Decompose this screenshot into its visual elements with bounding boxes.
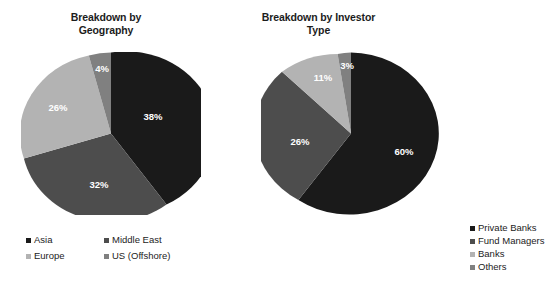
legend-label-us-offshore: US (Offshore) — [112, 250, 170, 262]
chart-title-geography-line2: Geography — [0, 24, 212, 37]
legend-item-private-banks[interactable]: Private Banks — [470, 222, 549, 234]
pie-slices-investor-type — [261, 53, 439, 215]
chart-title-investor-type-line1: Breakdown by Investor — [262, 11, 375, 23]
legend-label-fund-managers: Fund Managers — [478, 235, 545, 247]
legend-swatch-icon-europe — [26, 254, 31, 259]
pie-label-private-banks: 60% — [394, 146, 414, 157]
legend-swatch-icon-others — [470, 265, 475, 270]
legend-item-europe[interactable]: Europe — [26, 250, 104, 262]
pie-slices-geography — [21, 52, 201, 215]
chart-title-geography: Breakdown by Geography — [0, 11, 212, 37]
legend-item-fund-managers[interactable]: Fund Managers — [470, 235, 549, 247]
legend-swatch-icon-asia — [26, 238, 31, 243]
pie-label-middle-east: 32% — [89, 179, 109, 190]
legend-swatch-icon-middle-east — [104, 238, 109, 243]
legend-label-europe: Europe — [34, 250, 65, 262]
legend-label-private-banks: Private Banks — [478, 222, 537, 234]
legend-investor-type: Private Banks Fund Managers Banks Others — [470, 222, 549, 273]
legend-item-middle-east[interactable]: Middle East — [104, 234, 194, 246]
chart-panel-geography: Breakdown by Geography 38% 32% — [0, 0, 212, 281]
chart-panel-investor-type: Breakdown by Investor Type 60% 26% — [212, 0, 425, 281]
pie-label-europe: 26% — [48, 102, 68, 113]
legend-label-others: Others — [478, 261, 507, 273]
pie-svg-geography: 38% 32% 26% 4% — [21, 52, 201, 215]
legend-swatch-icon-fund-managers — [470, 239, 475, 244]
legend-swatch-icon-us-offshore — [104, 254, 109, 259]
legend-label-middle-east: Middle East — [112, 234, 162, 246]
legend-label-asia: Asia — [34, 234, 52, 246]
chart-title-geography-line1: Breakdown by — [71, 11, 142, 23]
legend-label-banks: Banks — [478, 248, 504, 260]
pie-label-fund-managers: 26% — [290, 136, 310, 147]
pie-chart-investor-type: 60% 26% 11% 3% — [261, 52, 441, 215]
pie-label-asia: 38% — [143, 111, 163, 122]
legend-item-us-offshore[interactable]: US (Offshore) — [104, 250, 194, 262]
legend-geography: Asia Middle East Europe US (Offshore) — [26, 234, 194, 262]
pie-label-others: 3% — [340, 60, 354, 71]
legend-item-banks[interactable]: Banks — [470, 248, 549, 260]
chart-title-investor-type-line2: Type — [212, 24, 425, 37]
pie-chart-geography: 38% 32% 26% 4% — [21, 52, 201, 215]
legend-swatch-icon-private-banks — [470, 226, 475, 231]
pie-svg-investor-type: 60% 26% 11% 3% — [261, 52, 441, 215]
legend-item-others[interactable]: Others — [470, 261, 549, 273]
chart-title-investor-type: Breakdown by Investor Type — [212, 11, 425, 37]
legend-item-asia[interactable]: Asia — [26, 234, 104, 246]
pie-label-us-offshore: 4% — [95, 63, 109, 74]
pie-label-banks: 11% — [314, 72, 333, 83]
legend-swatch-icon-banks — [470, 252, 475, 257]
